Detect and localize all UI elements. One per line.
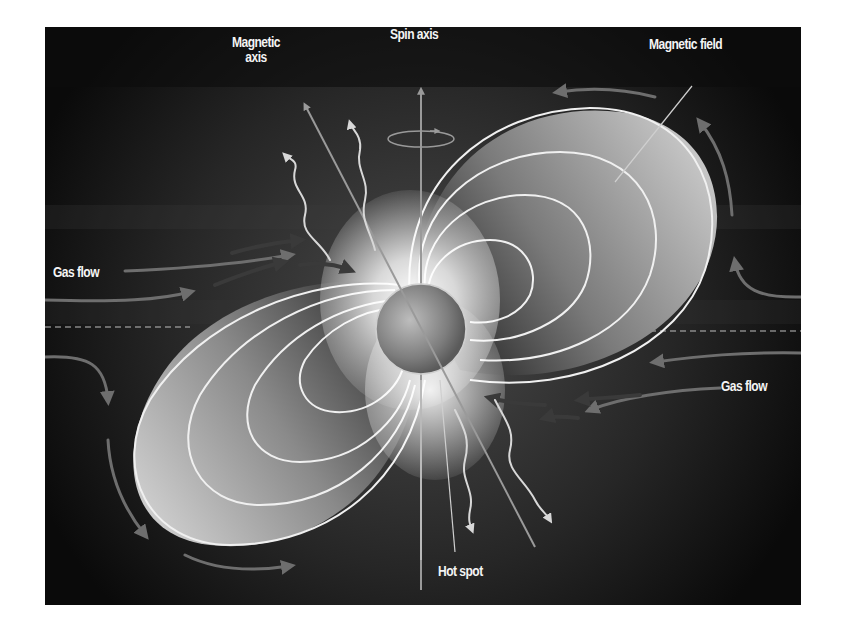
magnetic-axis-label-line2: axis bbox=[232, 50, 280, 65]
diagram-panel: Magnetic axis Spin axis Magnetic field G… bbox=[45, 27, 801, 605]
magnetic-axis-label: Magnetic axis bbox=[232, 35, 280, 65]
spin-axis-label: Spin axis bbox=[390, 27, 438, 42]
gas-flow-label-left: Gas flow bbox=[53, 265, 99, 280]
hot-spot-label: Hot spot bbox=[438, 564, 483, 579]
magnetic-field-label: Magnetic field bbox=[649, 37, 722, 52]
gas-flow-label-right: Gas flow bbox=[721, 379, 767, 394]
magnetic-axis-label-line1: Magnetic bbox=[232, 35, 280, 50]
pulsar-diagram bbox=[45, 27, 801, 605]
